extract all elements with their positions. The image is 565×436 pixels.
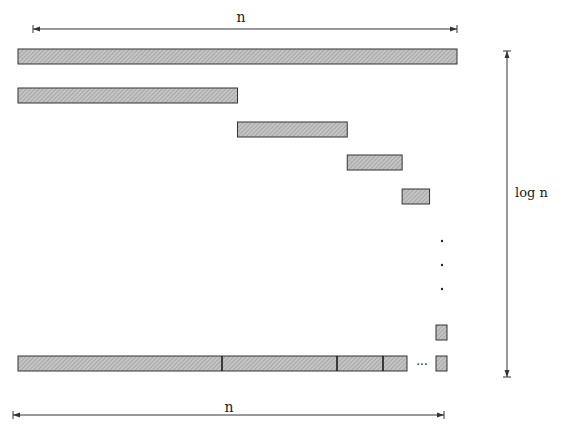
bar-level-3 bbox=[238, 122, 348, 137]
top-dimension-arrow bbox=[33, 25, 457, 33]
horizontal-ellipsis: ··· bbox=[416, 358, 427, 372]
bar-level-4 bbox=[347, 155, 402, 170]
bar-level-last bbox=[436, 325, 447, 340]
side-dimension-label: log n bbox=[515, 185, 548, 200]
vertical-ellipsis bbox=[441, 240, 443, 290]
combined-bar bbox=[18, 356, 407, 371]
bar-level-1 bbox=[18, 49, 457, 64]
side-dimension-arrow bbox=[503, 51, 511, 377]
ellipsis-dot bbox=[441, 288, 443, 290]
bar-level-2 bbox=[18, 88, 238, 103]
combined-final-block bbox=[436, 356, 447, 371]
top-dimension-label: n bbox=[236, 9, 245, 25]
ellipsis-dot bbox=[441, 264, 443, 266]
bar-level-5 bbox=[402, 189, 429, 204]
combined-row bbox=[18, 356, 447, 371]
diagram-canvas: n ··· log n n bbox=[0, 0, 565, 436]
ellipsis-dot bbox=[441, 240, 443, 242]
level-bars bbox=[18, 49, 457, 340]
bottom-dimension-label: n bbox=[224, 399, 233, 415]
